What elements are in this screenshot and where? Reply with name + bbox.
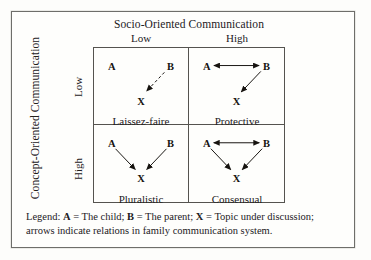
- legend-key-x: X: [196, 211, 204, 222]
- concept-level-low: Low: [72, 57, 84, 117]
- node-x-label: X: [137, 96, 145, 107]
- legend-text-a: = The child;: [73, 211, 124, 222]
- quadrant-pluralistic: A B X: [94, 125, 189, 202]
- legend-text-x: = Topic under discussion;: [206, 211, 314, 222]
- protective-arrows: [189, 48, 284, 124]
- node-x-label: X: [137, 173, 145, 184]
- node-a-label: A: [203, 61, 211, 72]
- node-a-label: A: [203, 138, 211, 149]
- socio-level-low: Low: [93, 32, 189, 44]
- legend-line-2: arrows indicate relations in family comm…: [26, 225, 272, 236]
- node-b-label: B: [167, 138, 174, 149]
- quadrant-label-laissez-faire: Laissez-faire: [93, 115, 189, 127]
- quadrant-label-consensual: Consensual: [189, 193, 285, 205]
- concept-axis-title: Concept-Oriented Communication: [29, 33, 41, 203]
- quadrant-laissez-faire: A B X: [94, 48, 189, 125]
- node-b-label: B: [263, 61, 270, 72]
- laissez-faire-arrows: [94, 48, 188, 124]
- node-a-label: A: [108, 138, 116, 149]
- quadrant-label-pluralistic: Pluralistic: [93, 193, 189, 205]
- node-b-label: B: [263, 138, 270, 149]
- node-a-label: A: [108, 61, 116, 72]
- quadrant-consensual: A B X: [189, 125, 284, 202]
- node-x-label: X: [233, 96, 241, 107]
- figure-page: Socio-Oriented Communication Low High Co…: [0, 0, 371, 260]
- legend-key-b: B: [127, 211, 134, 222]
- consensual-arrows: [189, 125, 284, 202]
- node-x-label: X: [233, 173, 241, 184]
- pluralistic-arrows: [94, 125, 188, 202]
- legend-prefix: Legend:: [26, 211, 60, 222]
- figure-legend: Legend: A = The child; B = The parent; X…: [26, 210, 338, 238]
- quadrant-label-protective: Protective: [189, 115, 285, 127]
- node-b-label: B: [167, 61, 174, 72]
- legend-key-a: A: [63, 211, 71, 222]
- concept-level-high: High: [72, 139, 84, 199]
- quadrant-protective: A B X: [189, 48, 284, 125]
- socio-axis-title: Socio-Oriented Communication: [93, 18, 285, 30]
- socio-level-high: High: [189, 32, 285, 44]
- legend-text-b: = The parent;: [137, 211, 193, 222]
